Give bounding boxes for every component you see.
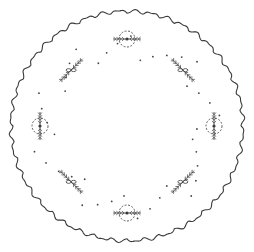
scattered-dots <box>34 35 221 219</box>
bow-spray-motif <box>59 58 83 82</box>
doily-illustration: Circular scalloped doily embroidery patt… <box>0 0 254 252</box>
doily-pattern-drawing <box>0 0 254 252</box>
bow-spray-motif <box>171 58 195 82</box>
bow-spray-motif <box>59 170 83 194</box>
scalloped-border <box>9 9 244 242</box>
wreath-motif <box>32 112 48 140</box>
bow-spray-motif <box>171 170 195 194</box>
wreath-motif <box>113 31 141 47</box>
